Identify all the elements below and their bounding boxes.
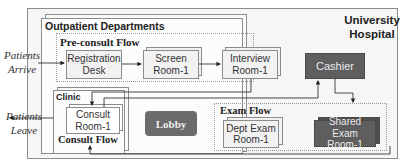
consult-to-cashier-arrow [104, 81, 318, 107]
flow-arrows [0, 0, 404, 168]
cashier-to-exam-arrow [335, 79, 353, 102]
interview-to-consult-arrow [92, 79, 251, 105]
exam-to-consult-arrow [90, 146, 390, 154]
